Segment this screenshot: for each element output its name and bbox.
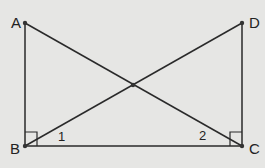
right-angle-marker-c xyxy=(230,132,242,146)
point-a xyxy=(23,21,27,25)
point-b xyxy=(23,144,27,148)
right-angle-marker-b xyxy=(25,132,37,146)
label-b: B xyxy=(10,141,20,156)
point-c xyxy=(240,144,244,148)
label-a: A xyxy=(11,15,21,30)
label-c: C xyxy=(249,141,260,156)
label-d: D xyxy=(249,15,260,30)
angle-label-2: 2 xyxy=(199,129,206,142)
angle-label-1: 1 xyxy=(58,130,65,143)
geometry-diagram: A B C D 1 2 xyxy=(0,0,265,168)
intersection-point xyxy=(131,83,135,87)
point-d xyxy=(240,21,244,25)
diagram-svg xyxy=(0,0,265,168)
